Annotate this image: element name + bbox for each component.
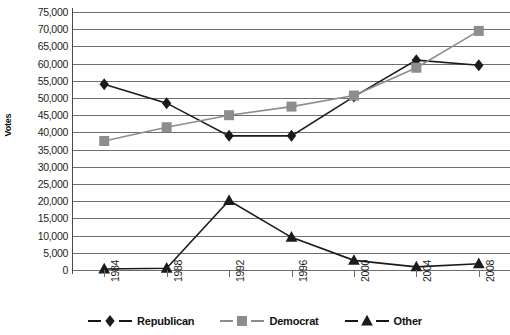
x-axis-tick: [229, 270, 230, 277]
x-axis-tick-label: 1984: [109, 260, 121, 282]
y-axis-tick-label: 65,000: [38, 41, 68, 51]
x-axis-tick: [354, 270, 355, 277]
data-point-marker: [349, 91, 359, 101]
data-point-marker: [162, 97, 171, 109]
series-democrat: [99, 26, 484, 146]
y-axis-tick-label: 35,000: [38, 145, 68, 155]
y-axis-tick-label: 5,000: [43, 248, 68, 258]
plot-area: [73, 12, 510, 270]
data-point-marker: [286, 231, 298, 242]
x-axis-tick: [416, 270, 417, 277]
x-axis-tick-label: 1988: [172, 260, 184, 282]
series-line: [104, 60, 479, 136]
legend-line-left: [220, 320, 233, 322]
legend-item-other[interactable]: Other: [345, 314, 422, 328]
legend-item-democrat[interactable]: Democrat: [220, 314, 318, 328]
y-axis-tick-label: 70,000: [38, 24, 68, 34]
x-axis-ticks: [73, 270, 510, 278]
y-axis-tick-labels: 75,00070,00065,00060,00055,00050,00045,0…: [14, 0, 70, 280]
legend-marker-diamond-icon: [103, 314, 117, 328]
data-point-marker: [162, 122, 172, 132]
data-point-marker: [224, 130, 233, 142]
y-axis-tick-label: 50,000: [38, 93, 68, 103]
legend-item-republican[interactable]: Republican: [88, 314, 194, 328]
x-axis-tick-label: 1992: [234, 260, 246, 282]
x-axis-tick: [104, 270, 105, 277]
legend-line-left: [88, 320, 101, 322]
data-point-marker: [224, 110, 234, 120]
y-axis-tick-label: 25,000: [38, 179, 68, 189]
data-point-marker: [223, 194, 235, 205]
legend-marker-square-icon: [235, 314, 249, 328]
x-axis-tick: [167, 270, 168, 277]
y-axis-tick-label: 55,000: [38, 76, 68, 86]
y-axis-tick-label: 75,000: [38, 7, 68, 17]
y-axis-tick-label: 40,000: [38, 127, 68, 137]
y-axis-tick-label: 20,000: [38, 196, 68, 206]
data-point-marker: [287, 102, 297, 112]
series-line: [104, 31, 479, 141]
chart-legend: RepublicanDemocratOther: [0, 311, 510, 331]
x-axis-tick: [479, 270, 480, 277]
y-axis-tick-label: 15,000: [38, 213, 68, 223]
y-axis-tick-label: 0: [62, 265, 68, 275]
y-axis-tick-label: 10,000: [38, 231, 68, 241]
data-point-marker: [473, 258, 485, 269]
y-axis-title: Votes: [3, 105, 13, 145]
y-axis-tick-label: 60,000: [38, 59, 68, 69]
legend-line-left: [345, 320, 358, 322]
legend-label: Democrat: [269, 315, 318, 327]
legend-line-right: [119, 320, 132, 322]
data-point-marker: [411, 63, 421, 73]
x-axis-tick-label: 1996: [297, 260, 309, 282]
x-axis-tick-label: 2000: [359, 260, 371, 282]
legend-label: Other: [394, 315, 422, 327]
legend-line-right: [376, 320, 389, 322]
data-point-marker: [99, 136, 109, 146]
legend-line-right: [251, 320, 264, 322]
x-axis-tick-label: 2008: [484, 260, 496, 282]
y-axis-tick-label: 30,000: [38, 162, 68, 172]
x-axis-tick: [292, 270, 293, 277]
data-point-marker: [474, 59, 483, 71]
data-point-marker: [100, 78, 109, 90]
x-axis-tick-label: 2004: [421, 260, 433, 282]
legend-label: Republican: [137, 315, 194, 327]
data-point-marker: [287, 130, 296, 142]
line-chart: Votes 75,00070,00065,00060,00055,00050,0…: [0, 0, 510, 335]
data-point-marker: [474, 26, 484, 36]
series-layer: [73, 12, 510, 270]
legend-marker-triangle-icon: [360, 314, 374, 328]
y-axis-tick-label: 45,000: [38, 110, 68, 120]
